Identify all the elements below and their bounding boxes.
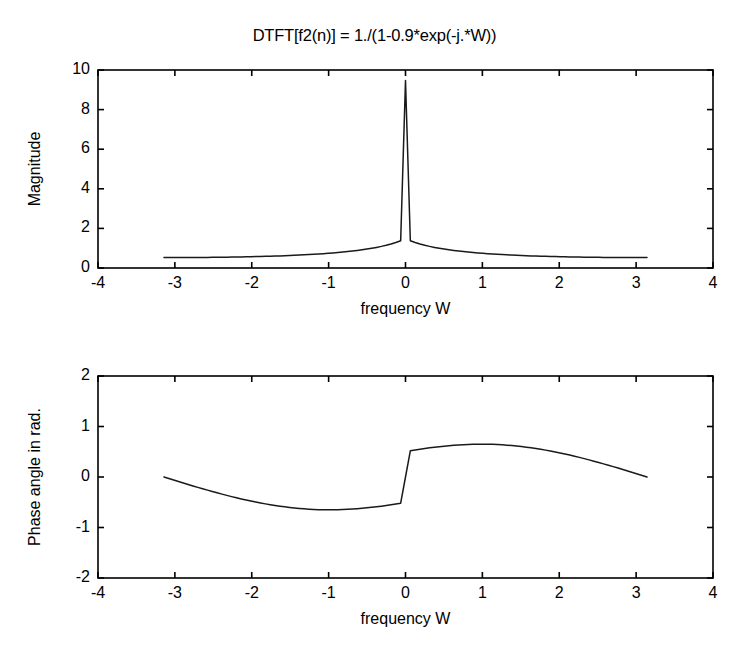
magnitude-y-axis-label: Magnitude bbox=[26, 70, 44, 268]
x-tick-label: 4 bbox=[688, 584, 738, 602]
x-tick-label: 2 bbox=[534, 584, 584, 602]
figure-canvas: DTFT[f2(n)] = 1./(1-0.9*exp(-j.*W)) Magn… bbox=[0, 0, 749, 667]
x-tick-label: -4 bbox=[73, 584, 123, 602]
y-tick-label: -1 bbox=[44, 518, 90, 536]
y-tick-label: -2 bbox=[44, 568, 90, 586]
magnitude-subplot: DTFT[f2(n)] = 1./(1-0.9*exp(-j.*W)) Magn… bbox=[0, 0, 749, 340]
x-tick-label: -1 bbox=[304, 274, 354, 292]
y-tick-label: 6 bbox=[44, 139, 90, 157]
x-tick-label: -3 bbox=[150, 584, 200, 602]
y-tick-label: 2 bbox=[44, 218, 90, 236]
x-tick-label: 3 bbox=[611, 584, 661, 602]
magnitude-x-axis-label: frequency W bbox=[98, 300, 713, 318]
x-tick-label: 3 bbox=[611, 274, 661, 292]
x-tick-label: 4 bbox=[688, 274, 738, 292]
x-tick-label: -1 bbox=[304, 584, 354, 602]
y-tick-label: 0 bbox=[44, 467, 90, 485]
x-tick-label: 0 bbox=[381, 274, 431, 292]
phase-x-axis-label: frequency W bbox=[98, 610, 713, 628]
x-tick-label: 0 bbox=[381, 584, 431, 602]
y-tick-label: 10 bbox=[44, 60, 90, 78]
x-tick-label: 2 bbox=[534, 274, 584, 292]
data-line bbox=[164, 80, 647, 257]
y-tick-label: 2 bbox=[44, 366, 90, 384]
data-line bbox=[164, 444, 647, 510]
x-tick-label: -2 bbox=[227, 584, 277, 602]
x-tick-label: 1 bbox=[457, 274, 507, 292]
x-tick-label: -4 bbox=[73, 274, 123, 292]
phase-y-axis-label: Phase angle in rad. bbox=[26, 376, 44, 578]
x-tick-label: -2 bbox=[227, 274, 277, 292]
x-tick-label: -3 bbox=[150, 274, 200, 292]
y-tick-label: 0 bbox=[44, 258, 90, 276]
phase-subplot: Phase angle in rad. frequency W -4-3-2-1… bbox=[0, 332, 749, 667]
y-tick-label: 4 bbox=[44, 179, 90, 197]
y-tick-label: 1 bbox=[44, 417, 90, 435]
x-tick-label: 1 bbox=[457, 584, 507, 602]
y-tick-label: 8 bbox=[44, 100, 90, 118]
